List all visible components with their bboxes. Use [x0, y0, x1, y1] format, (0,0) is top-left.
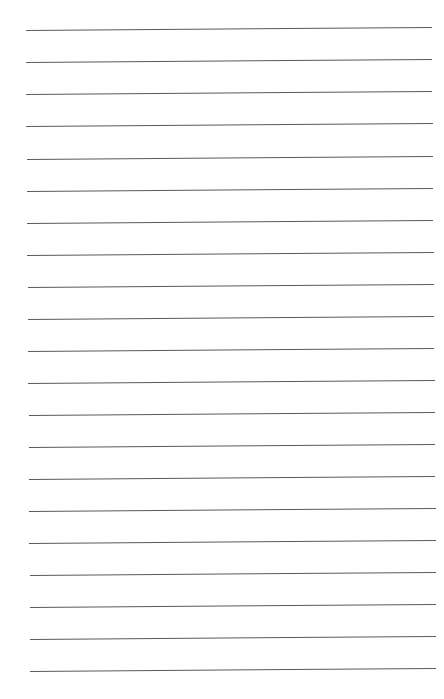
ruled-line [30, 572, 436, 576]
ruled-line [30, 636, 436, 640]
lined-paper-page [0, 0, 444, 699]
ruled-line [28, 380, 435, 384]
ruled-line [26, 123, 433, 127]
ruled-line [29, 540, 436, 544]
ruled-line [30, 668, 436, 672]
ruled-line [26, 91, 432, 95]
ruled-line [30, 604, 436, 608]
ruled-line [29, 412, 435, 416]
ruled-line [27, 188, 433, 192]
ruled-line [27, 156, 433, 160]
ruled-line [26, 59, 432, 63]
ruled-line [28, 316, 434, 320]
ruled-line [29, 476, 435, 480]
ruled-line [26, 27, 432, 31]
ruled-line [27, 252, 434, 256]
ruled-line [28, 348, 434, 352]
ruled-line [29, 508, 436, 512]
ruled-line [28, 284, 434, 288]
ruled-line [27, 220, 433, 224]
ruled-line [29, 444, 435, 448]
